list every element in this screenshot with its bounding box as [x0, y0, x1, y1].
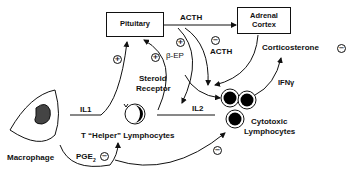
positive-sign-icon: +: [113, 55, 122, 64]
steroid-receptor-line1: Steroid: [139, 74, 167, 83]
adrenal-label-line2: Cortex: [252, 21, 276, 30]
ifn-arrow: [255, 58, 281, 95]
il1-to-pituitary-arrow: [101, 42, 127, 115]
pituitary-label: Pituitary: [120, 20, 150, 29]
negative-sign-icon: −: [213, 146, 222, 155]
cytotoxic-line2: Lymphocytes: [244, 127, 295, 136]
macrophage-label: Macrophage: [7, 153, 54, 162]
macrophage-cell-icon: [10, 90, 59, 141]
steroid-receptor-line2: Receptor: [136, 84, 171, 93]
t-helper-label: T “Helper” Lymphocytes: [81, 131, 175, 140]
negative-sign-icon: −: [337, 44, 346, 53]
cytotoxic-line1: Cytotoxic: [251, 117, 287, 126]
adrenal-cortex-box: Adrenal Cortex: [237, 7, 291, 34]
il1-label: IL1: [80, 105, 92, 114]
positive-sign-icon: +: [151, 53, 160, 62]
pituitary-box: Pituitary: [106, 12, 164, 37]
diagram-arrows: [0, 0, 349, 176]
negative-sign-icon: −: [211, 36, 220, 45]
t-helper-cell-icon: [124, 104, 145, 124]
acth-top-label: ACTH: [180, 13, 202, 22]
beta-ep-label: β-EP: [166, 51, 184, 60]
corticosterone-label: Corticosterone: [262, 43, 319, 52]
acth-to-cells-arrow-1: [185, 28, 208, 85]
il2-label: IL2: [192, 104, 204, 113]
ifn-gamma-label: IFNγ: [278, 78, 294, 87]
pge2-subscript: 2: [93, 157, 96, 163]
pge2-main: PGE: [76, 152, 93, 161]
acth-negative-label: ACTH: [210, 47, 232, 56]
pge2-label: PGE2: [76, 152, 96, 165]
immune-neuroendocrine-diagram: Pituitary Adrenal Cortex ACTH + β-EP − A…: [0, 0, 349, 176]
positive-sign-icon: +: [176, 38, 185, 47]
negative-sign-icon: −: [100, 152, 109, 161]
acth-to-cytotoxic-arrow: [185, 75, 220, 98]
corticosterone-arrow: [215, 35, 258, 85]
